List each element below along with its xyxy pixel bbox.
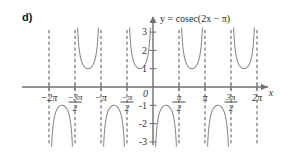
x-tick-label: π	[202, 92, 208, 103]
cosec-branch	[52, 105, 73, 146]
y-tick-label: -3	[139, 136, 147, 147]
x-tick-label-numerator: 3π	[225, 92, 236, 102]
x-axis-arrowhead	[261, 84, 268, 90]
x-tick-label-numerator: −3π	[67, 92, 83, 102]
y-tick-label: 0	[143, 88, 148, 99]
x-tick-label-numerator: π	[177, 92, 182, 102]
x-tick-label: 2π	[252, 92, 263, 103]
x-axis-label: x	[268, 87, 274, 98]
x-tick-label-denominator: 2	[229, 103, 234, 113]
y-tick-label: 1	[142, 63, 147, 74]
y-tick-label: -1	[139, 100, 147, 111]
cosec-branch	[182, 28, 203, 69]
cosec-branch	[130, 28, 151, 69]
y-tick-label: 2	[142, 45, 147, 56]
cosec-branch	[208, 105, 229, 146]
x-tick-label-denominator: 2	[125, 103, 130, 113]
x-tick-label-denominator: 2	[177, 103, 182, 113]
x-tick-label: −π	[95, 92, 108, 103]
cosec-branch	[78, 28, 99, 69]
y-tick-label: 3	[142, 26, 147, 37]
x-tick-label-numerator: −π	[122, 92, 133, 102]
y-tick-label: -2	[139, 118, 147, 129]
x-tick-label-denominator: 2	[73, 103, 78, 113]
cosec-branch	[104, 105, 125, 146]
x-tick-label: −2π	[41, 92, 59, 103]
cosec-branch	[234, 28, 255, 69]
x-tick-label-group: −2π−3π2−π−π2π2π3π22π	[41, 92, 263, 113]
cosec-graph: −2π−3π2−π−π2π2π3π22π 3210-1-2-3 x	[0, 0, 285, 154]
cosec-branch	[156, 105, 177, 146]
y-axis-arrowhead	[150, 16, 157, 23]
